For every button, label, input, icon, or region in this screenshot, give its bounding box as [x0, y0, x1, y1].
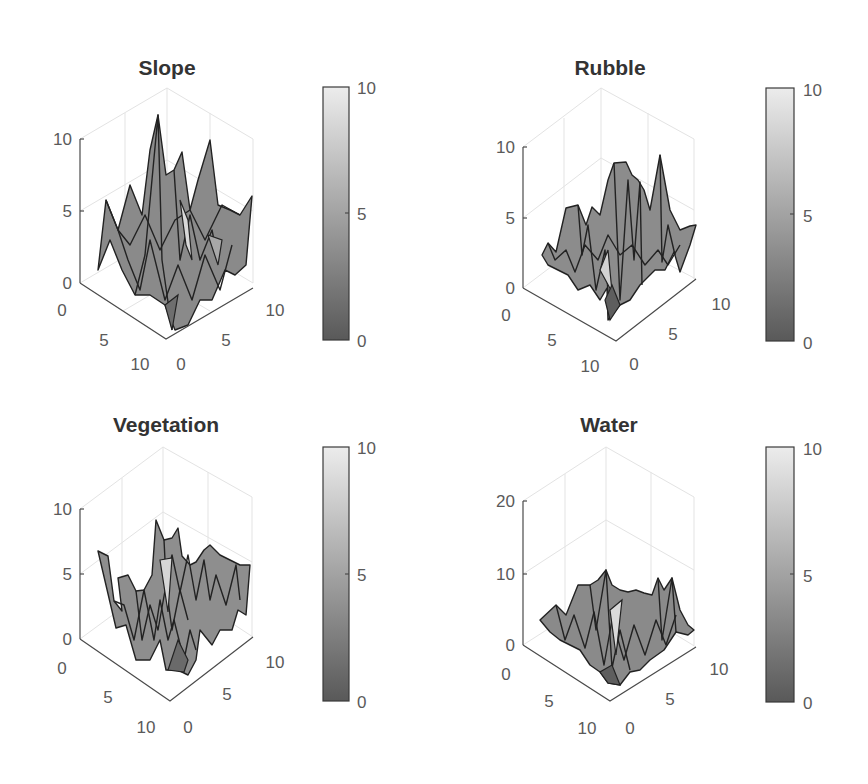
x-tick-10: 10 [266, 301, 285, 320]
panel-title: Slope [138, 56, 195, 79]
x-tick-10: 10 [712, 295, 731, 314]
panel-title: Water [580, 413, 638, 436]
x-tick-0: 0 [176, 355, 185, 374]
y-tick-10: 10 [578, 719, 597, 738]
z-tick-0: 0 [63, 630, 72, 649]
colorbar-tick-5: 5 [803, 207, 812, 226]
surface-plot [540, 570, 694, 685]
surface-plot [98, 115, 252, 330]
panel-rubble: Rubble 10 5 0 0 5 10 [496, 56, 822, 376]
panel-vegetation: Vegetation 10 5 0 0 5 10 [53, 413, 376, 737]
panel-title: Rubble [574, 56, 645, 79]
panel-title: Vegetation [113, 413, 219, 436]
colorbar-tick-0: 0 [803, 694, 812, 713]
x-tick-5: 5 [222, 685, 231, 704]
colorbar [766, 447, 794, 702]
y-tick-0: 0 [57, 659, 66, 678]
panel-slope: Slope [53, 56, 376, 374]
colorbar-tick-0: 0 [803, 334, 812, 353]
z-tick-5: 5 [506, 209, 515, 228]
z-tick-5: 5 [63, 565, 72, 584]
colorbar-tick-5: 5 [803, 567, 812, 586]
x-tick-0: 0 [183, 718, 192, 737]
z-tick-10: 10 [496, 138, 515, 157]
z-tick-10: 10 [496, 565, 515, 584]
z-tick-0: 0 [506, 636, 515, 655]
z-tick-5: 5 [63, 202, 72, 221]
y-tick-5: 5 [547, 331, 556, 350]
x-tick-5: 5 [221, 331, 230, 350]
colorbar-tick-0: 0 [357, 332, 366, 351]
z-tick-0: 0 [506, 279, 515, 298]
z-tick-10: 10 [53, 130, 72, 149]
colorbar [323, 87, 349, 340]
y-tick-10: 10 [581, 357, 600, 376]
colorbar [323, 447, 349, 701]
x-tick-0: 0 [625, 719, 634, 738]
x-tick-5: 5 [665, 690, 674, 709]
y-tick-5: 5 [99, 331, 108, 350]
surface-plot [542, 155, 696, 320]
x-tick-10: 10 [266, 653, 285, 672]
y-tick-5: 5 [544, 692, 553, 711]
z-tick-10: 10 [53, 500, 72, 519]
x-tick-10: 10 [710, 660, 729, 679]
y-tick-0: 0 [501, 306, 510, 325]
y-tick-5: 5 [103, 688, 112, 707]
colorbar-tick-10: 10 [803, 440, 822, 459]
colorbar-tick-10: 10 [357, 439, 376, 458]
panel-water: Water 20 10 0 0 5 10 0 [496, 413, 822, 738]
x-tick-0: 0 [629, 355, 638, 374]
y-tick-10: 10 [137, 718, 156, 737]
z-tick-0: 0 [63, 274, 72, 293]
z-tick-20: 20 [496, 492, 515, 511]
colorbar-tick-0: 0 [357, 693, 366, 712]
figure: Slope [0, 0, 868, 784]
colorbar-tick-5: 5 [357, 566, 366, 585]
colorbar-tick-10: 10 [357, 79, 376, 98]
y-tick-0: 0 [57, 301, 66, 320]
colorbar [766, 88, 794, 341]
colorbar-tick-10: 10 [803, 81, 822, 100]
y-tick-10: 10 [131, 355, 150, 374]
x-tick-5: 5 [668, 325, 677, 344]
y-tick-0: 0 [501, 665, 510, 684]
colorbar-tick-5: 5 [357, 205, 366, 224]
